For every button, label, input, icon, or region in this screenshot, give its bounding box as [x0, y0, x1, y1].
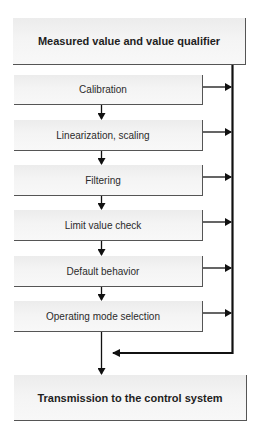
- transmission-box: Transmission to the control system: [14, 375, 247, 421]
- step-label: Filtering: [85, 175, 121, 186]
- measured-value-box: Measured value and value qualifier: [13, 18, 246, 65]
- step-limit-value-check-box: Limit value check: [14, 210, 203, 241]
- step-label: Default behavior: [67, 266, 140, 277]
- step-label: Limit value check: [65, 220, 142, 231]
- step-default-behavior-box: Default behavior: [14, 256, 203, 287]
- step-label: Calibration: [79, 84, 127, 95]
- step-to-bus-arrows: [203, 87, 231, 313]
- transmission-label: Transmission to the control system: [37, 392, 222, 404]
- step-linearization-box: Linearization, scaling: [14, 120, 203, 151]
- step-label: Linearization, scaling: [56, 130, 149, 141]
- step-label: Operating mode selection: [46, 311, 160, 322]
- step-operating-mode-selection-box: Operating mode selection: [14, 301, 203, 332]
- step-filtering-box: Filtering: [14, 165, 203, 196]
- measured-value-label: Measured value and value qualifier: [38, 35, 220, 47]
- step-calibration-box: Calibration: [14, 75, 203, 105]
